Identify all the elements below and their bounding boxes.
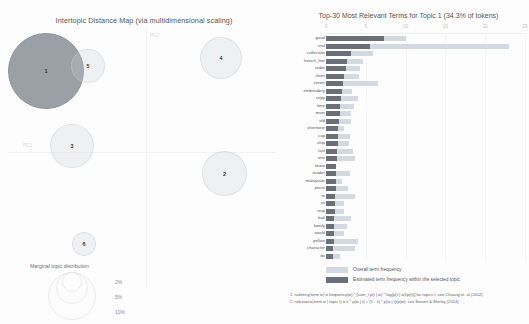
term-label[interactable]: ship	[265, 140, 325, 145]
bar-row[interactable]: bali	[288, 215, 529, 223]
x-tick-label: 25	[522, 24, 527, 29]
footnote-relevance: 2. relevance(term w | topic t) = λ * p(w…	[290, 298, 528, 305]
marginal-size-circle-10pct	[48, 272, 96, 320]
bar-topic-frequency	[326, 51, 351, 56]
topic-bubble-label: 6	[83, 241, 86, 247]
bar-row[interactable]: cup	[288, 133, 529, 141]
chart-footnotes: 1. saliency(term w) = frequency(w) * [su…	[290, 291, 528, 305]
bar-topic-frequency	[326, 239, 334, 244]
topic-bubble-3[interactable]: 3	[50, 124, 94, 168]
bar-row[interactable]: good	[288, 35, 529, 43]
term-label[interactable]: know	[265, 163, 325, 168]
bar-topic-frequency	[326, 179, 336, 184]
intertopic-map-title: Intertopic Distance Map (via multidimens…	[0, 16, 288, 25]
bar-row[interactable]: order	[288, 65, 529, 73]
bar-row[interactable]: real	[288, 43, 529, 51]
bar-topic-frequency	[326, 254, 333, 259]
term-label[interactable]: main	[265, 110, 325, 115]
bar-row[interactable]: short	[288, 73, 529, 81]
bar-topic-frequency	[326, 186, 336, 191]
bar-row[interactable]: collection	[288, 50, 529, 58]
term-label[interactable]: shorttone	[265, 125, 325, 130]
term-label[interactable]: time	[265, 103, 325, 108]
bar-row[interactable]: know	[288, 163, 529, 171]
bar-chart-plot-area: 0510152025 goodrealcollectionfrench_line…	[288, 24, 529, 262]
marginal-size-label-10pct: 10%	[115, 309, 125, 315]
term-label[interactable]: french_line	[265, 58, 325, 63]
bar-row[interactable]: malaysian	[288, 178, 529, 186]
term-label[interactable]: good	[265, 35, 325, 40]
bar-row[interactable]: piece	[288, 185, 529, 193]
bar-row[interactable]: world	[288, 230, 529, 238]
bar-row[interactable]: to	[288, 193, 529, 201]
bar-row[interactable]: do	[288, 253, 529, 261]
term-label[interactable]: collection	[265, 50, 325, 55]
term-label[interactable]: malaysian	[265, 178, 325, 183]
term-label[interactable]: copy	[265, 95, 325, 100]
term-label[interactable]: real	[265, 43, 325, 48]
term-label[interactable]: piece	[265, 185, 325, 190]
intertopic-distance-map[interactable]: Intertopic Distance Map (via multidimens…	[0, 0, 288, 324]
bar-topic-frequency	[326, 126, 338, 131]
bar-row[interactable]: copy	[288, 95, 529, 103]
bar-row[interactable]: one	[288, 155, 529, 163]
bar-topic-frequency	[326, 134, 338, 139]
term-label[interactable]: order	[265, 65, 325, 70]
bar-topic-frequency	[326, 216, 334, 221]
topic-bubble-5[interactable]: 5	[71, 49, 105, 83]
term-label[interactable]: embroidery	[265, 88, 325, 93]
marginal-topic-distribution-caption: Marginal topic distribution	[30, 263, 89, 269]
term-label[interactable]: character	[265, 245, 325, 250]
bar-row[interactable]: shorttone	[288, 125, 529, 133]
bar-topic-frequency	[326, 141, 338, 146]
term-label[interactable]: last	[265, 148, 325, 153]
term-label[interactable]: yellow	[265, 238, 325, 243]
bar-topic-frequency	[326, 119, 339, 124]
term-label[interactable]: world	[265, 230, 325, 235]
top-terms-bar-chart[interactable]: Top-30 Most Relevant Terms for Topic 1 (…	[288, 0, 529, 324]
bar-topic-frequency	[326, 201, 335, 206]
term-label[interactable]: do	[265, 253, 325, 258]
bar-topic-frequency	[326, 224, 334, 229]
topic-bubble-label: 2	[223, 171, 226, 177]
term-label[interactable]: to	[265, 193, 325, 198]
term-label[interactable]: sit	[265, 200, 325, 205]
topic-bubble-4[interactable]: 4	[200, 37, 242, 79]
bar-row[interactable]: yellow	[288, 238, 529, 246]
term-label[interactable]: family	[265, 223, 325, 228]
term-label[interactable]: cup	[265, 133, 325, 138]
bar-row[interactable]: embroidery	[288, 88, 529, 96]
term-label[interactable]: one	[265, 155, 325, 160]
pc2-axis-label: PC2	[150, 33, 159, 38]
bar-row[interactable]: series	[288, 80, 529, 88]
term-label[interactable]: reader	[265, 170, 325, 175]
topic-bubble-label: 4	[220, 55, 223, 61]
pc1-axis-line	[8, 152, 276, 153]
bar-row[interactable]: old	[288, 118, 529, 126]
bar-topic-frequency	[326, 164, 336, 169]
pc1-axis-label: PC1	[23, 143, 32, 148]
bar-row[interactable]: ship	[288, 140, 529, 148]
legend-swatch-overall	[326, 267, 348, 273]
bar-row[interactable]: family	[288, 223, 529, 231]
term-label[interactable]: strip	[265, 208, 325, 213]
topic-bubble-2[interactable]: 2	[202, 151, 247, 196]
bar-row[interactable]: sit	[288, 200, 529, 208]
topic-bubble-6[interactable]: 6	[72, 232, 96, 256]
bar-rows: goodrealcollectionfrench_lineordershorts…	[288, 35, 529, 262]
bar-row[interactable]: character	[288, 245, 529, 253]
term-label[interactable]: series	[265, 80, 325, 85]
bar-topic-frequency	[326, 44, 370, 49]
bar-row[interactable]: french_line	[288, 58, 529, 66]
term-label[interactable]: short	[265, 73, 325, 78]
bar-row[interactable]: time	[288, 103, 529, 111]
bar-row[interactable]: main	[288, 110, 529, 118]
marginal-size-label-5pct: 5%	[115, 294, 122, 300]
term-label[interactable]: bali	[265, 215, 325, 220]
bar-row[interactable]: reader	[288, 170, 529, 178]
term-label[interactable]: old	[265, 118, 325, 123]
bar-row[interactable]: strip	[288, 208, 529, 216]
bar-row[interactable]: last	[288, 148, 529, 156]
x-tick-label: 10	[403, 24, 408, 29]
topic-bubble-label: 5	[87, 63, 90, 69]
